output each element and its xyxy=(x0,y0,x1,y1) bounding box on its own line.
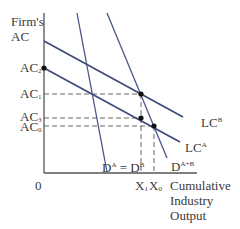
demand-ab-curve xyxy=(107,13,167,158)
point-x0 xyxy=(151,123,156,128)
demand-ab-label: DA+B xyxy=(171,157,194,174)
ac2-label: AC2 xyxy=(20,61,42,78)
x-axis-title-line3: Output xyxy=(170,209,206,223)
y-axis-title-line1: Firm's xyxy=(11,15,44,29)
origin-label: 0 xyxy=(35,179,42,193)
point-ac3 xyxy=(138,115,143,120)
lc-b-label: LCB xyxy=(201,113,222,130)
x0-label: X0 xyxy=(149,179,162,196)
lc-a-label: LCA xyxy=(185,138,207,155)
ac0-label: AC0 xyxy=(20,120,42,137)
demand-a-label: DA = DB xyxy=(102,158,144,175)
x1-label: X1 xyxy=(135,179,148,196)
point-ac2 xyxy=(41,65,46,70)
y-axis-title-line2: AC xyxy=(11,30,29,44)
ac1-label: AC1 xyxy=(20,87,42,104)
x-axis-title-line1: Cumulative xyxy=(170,179,231,193)
x-axis-title-line2: Industry xyxy=(170,194,213,208)
demand-a-curve xyxy=(77,13,107,172)
point-x1 xyxy=(138,91,143,96)
